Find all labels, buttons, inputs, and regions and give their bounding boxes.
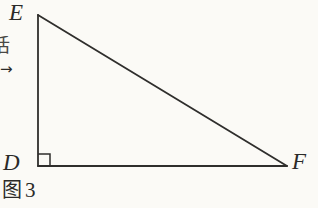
margin-clipped-character: 话: [0, 36, 10, 55]
vertex-label-f: F: [292, 150, 306, 173]
vertex-label-e: E: [9, 1, 23, 24]
margin-annotation: 话 →: [0, 36, 17, 82]
figure-container: E D F 图3 话 →: [0, 0, 318, 208]
triangle-strokes: [38, 15, 287, 166]
figure-caption: 图3: [2, 180, 36, 201]
vertex-label-d: D: [3, 151, 20, 174]
caption-label-char: 图: [2, 178, 22, 202]
right-arrow-icon: →: [0, 62, 13, 77]
caption-figure-number: 3: [25, 178, 36, 202]
right-angle-marker: [38, 154, 50, 166]
triangle-diagram: [0, 0, 318, 208]
segment-EF: [38, 15, 287, 166]
